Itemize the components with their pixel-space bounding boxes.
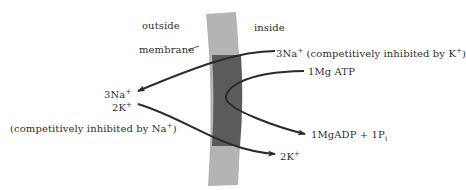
k-outside-charge: + — [126, 101, 132, 109]
k-outside-note: (competitively inhibited by Na+) — [10, 120, 177, 135]
k-inside-label: 2K+ — [280, 148, 300, 163]
na-inside-species: 3Na — [276, 48, 297, 59]
atp-label: 1Mg ATP — [308, 66, 355, 78]
k-outside-note-post: ) — [173, 123, 177, 134]
pi-subscript: i — [385, 135, 387, 143]
arrow-na-efflux — [138, 51, 275, 91]
na-inside-note-pre: (competitively inhibited by K — [303, 48, 456, 59]
k-outside-note-pre: (competitively inhibited by Na — [10, 123, 167, 134]
na-inside-label: 3Na+ (competitively inhibited by K+) — [276, 45, 466, 60]
k-inside-charge: + — [294, 150, 300, 158]
k-inside-species: 2K — [280, 151, 294, 162]
inside-label: inside — [254, 22, 285, 34]
outside-label: outside — [142, 20, 180, 32]
adp-pi-text: 1MgADP + 1P — [311, 129, 385, 140]
membrane-label: membrane — [139, 44, 194, 56]
adp-pi-label: 1MgADP + 1Pi — [311, 129, 387, 145]
na-outside-charge: + — [125, 88, 131, 96]
na-inside-note-post: ) — [462, 48, 466, 59]
k-outside-species: 2K — [112, 102, 126, 113]
k-outside-label: 2K+ — [112, 99, 132, 114]
